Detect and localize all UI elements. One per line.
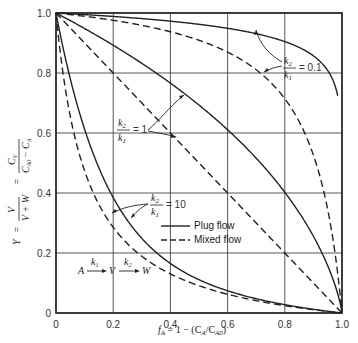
chart-figure: 00.20.40.60.81.0 00.20.40.60.81.0 fA = 1… [0,0,358,343]
plug-flow-curve-ratio-0.1 [56,13,338,96]
x-tick-label: 0 [53,319,59,330]
svg-text:=: = [11,178,22,185]
svg-text:Y: Y [11,238,22,245]
x-axis-label: fA = 1 − (CA/CA0) [158,324,226,337]
y-tick-label: 0.2 [37,248,51,259]
y-tick-label: 0.4 [37,188,51,199]
svg-text:V: V [6,205,17,213]
y-tick-labels: 00.20.40.60.81.0 [37,8,51,319]
svg-text:k2: k2 [118,117,126,130]
x-tick-label: 1.0 [335,319,349,330]
svg-text:A: A [77,265,85,276]
mixed-flow-curve-ratio-1 [56,13,342,313]
svg-text:k2: k2 [151,192,159,205]
svg-text:V: V [109,265,117,276]
annotation-ratio-0.1: k2 k1 = 0.1 [254,30,322,82]
x-tick-label: 0.2 [106,319,120,330]
svg-text:= 0.1: = 0.1 [299,62,322,73]
x-tick-label: 0.8 [278,319,292,330]
legend-plug-label: Plug flow [194,220,235,231]
y-tick-label: 0.8 [37,68,51,79]
svg-text:k2: k2 [124,256,131,268]
svg-text:CV: CV [6,153,18,165]
legend-mixed-label: Mixed flow [194,234,242,245]
svg-text:=: = [11,226,22,233]
legend: Plug flow Mixed flow [161,220,242,245]
data-curves [56,13,342,313]
svg-text:CA0 − CA: CA0 − CA [20,138,32,173]
svg-text:V + W: V + W [20,193,31,221]
reaction-scheme: A k1 V k2 W [77,256,152,276]
y-tick-label: 0 [45,308,51,319]
svg-text:= 1: = 1 [133,124,148,135]
y-tick-label: 1.0 [37,8,51,19]
svg-text:W: W [142,265,152,276]
svg-text:k1: k1 [91,256,98,268]
y-axis-label: Y = V V + W = CV CA0 − CA [6,138,32,245]
svg-text:k1: k1 [151,206,159,219]
svg-text:k1: k1 [118,132,126,145]
svg-text:k2: k2 [284,55,292,68]
y-tick-label: 0.6 [37,128,51,139]
svg-text:= 10: = 10 [166,199,186,210]
